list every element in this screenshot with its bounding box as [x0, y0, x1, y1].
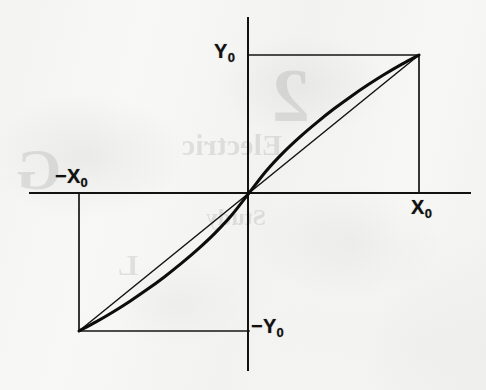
- plot-area: [0, 0, 486, 390]
- axis-label-neg-y0: −Y0: [251, 316, 284, 339]
- axis-label-x0-symbol: X: [411, 196, 425, 218]
- axis-label-neg-y0-subscript: 0: [277, 325, 284, 340]
- axis-label-y0: Y0: [214, 41, 235, 64]
- figure-canvas: Electric Study 2 G L Y0 −Y0 X0 −X0: [0, 0, 486, 390]
- axis-label-y0-subscript: 0: [228, 50, 235, 65]
- axis-label-neg-x0: −X0: [55, 166, 88, 189]
- axis-label-neg-x0-subscript: 0: [81, 175, 88, 190]
- axis-label-x0-subscript: 0: [425, 206, 432, 221]
- axis-label-neg-x0-symbol: −X: [55, 165, 80, 187]
- axis-label-x0: X0: [411, 197, 432, 220]
- axis-label-y0-symbol: Y: [214, 40, 228, 62]
- axis-label-neg-y0-symbol: −Y: [251, 315, 276, 337]
